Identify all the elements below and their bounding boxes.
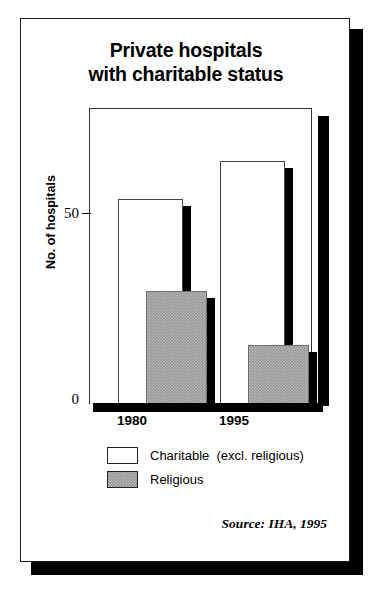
bar-shadow-religious-1980 bbox=[206, 298, 215, 404]
legend-swatch-charitable-icon bbox=[107, 447, 138, 464]
legend-item-charitable: Charitable (excl. religious) bbox=[107, 447, 304, 464]
legend-item-religious: Religious bbox=[107, 471, 304, 488]
page-title: Private hospitals with charitable status bbox=[21, 39, 351, 87]
y-axis-title: No. of hospitals bbox=[44, 157, 58, 287]
bar-religious-1980 bbox=[146, 291, 207, 404]
title-line-1: Private hospitals bbox=[21, 39, 351, 63]
title-line-2: with charitable status bbox=[21, 63, 351, 87]
bar-shadow-religious-1995 bbox=[308, 352, 317, 404]
x-category-label-1980: 1980 bbox=[87, 413, 177, 428]
legend-label-religious: Religious bbox=[150, 472, 203, 487]
bar-religious-1995 bbox=[248, 345, 309, 404]
legend-swatch-religious-icon bbox=[107, 471, 138, 488]
legend: Charitable (excl. religious) Religious bbox=[107, 447, 304, 495]
y-tick-50 bbox=[82, 213, 91, 214]
plot-area bbox=[89, 108, 312, 404]
plot-frame-shadow bbox=[318, 116, 329, 406]
x-category-label-1995: 1995 bbox=[189, 413, 279, 428]
y-tick-label-0: 0 bbox=[57, 391, 79, 408]
legend-label-charitable: Charitable (excl. religious) bbox=[150, 448, 304, 463]
source-note: Source: IHA, 1995 bbox=[222, 516, 327, 532]
chart-card: Private hospitals with charitable status… bbox=[20, 18, 350, 562]
x-axis-bar bbox=[93, 403, 323, 412]
